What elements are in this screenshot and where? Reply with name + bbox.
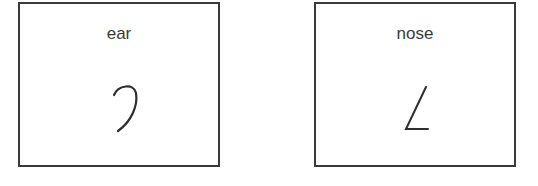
card-label: nose [316, 24, 514, 44]
nose-stroke-icon [398, 79, 438, 139]
card-nose: nose [314, 2, 516, 167]
ear-stroke-icon [108, 79, 148, 139]
card-label: ear [20, 24, 218, 44]
card-ear: ear [18, 2, 220, 167]
